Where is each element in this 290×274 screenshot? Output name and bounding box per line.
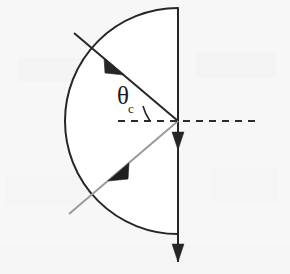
figure-canvas <box>0 0 290 274</box>
optics-figure: θc <box>0 0 290 274</box>
critical-angle-label: θc <box>117 83 135 112</box>
theta-subscript: c <box>128 101 134 116</box>
